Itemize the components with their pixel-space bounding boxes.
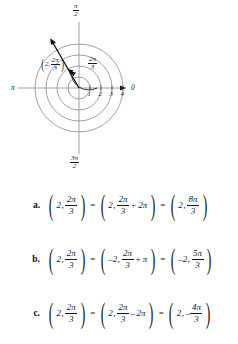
choice-c-equals-1: = [88, 308, 98, 318]
tick-label-3: 3 [110, 91, 114, 98]
choice-a-lhs-open-paren: ( [49, 194, 54, 216]
choice-b-rhs-radius: –2 [178, 254, 188, 264]
polar-coordinate-figure: 1 2 3 4 0 π π 2 3π 2 2π 3 ( 2 , 2π 3 ) [0, 0, 238, 176]
choice-c-rhs-denominator: 3 [190, 313, 202, 325]
choice-c-middle-numerator: 2π [117, 302, 129, 313]
choice-b-middle-close-paren: ) [150, 248, 155, 270]
choice-b-rhs-denominator: 3 [192, 259, 204, 271]
angle-label-numerator: 2π [88, 56, 97, 63]
terminal-ray-arrowhead [50, 38, 56, 45]
choice-c-lhs-numerator: 2π [65, 302, 77, 313]
point-label-theta-numerator: 2π [51, 57, 60, 64]
choice-c-middle-denominator: 3 [117, 313, 129, 325]
choice-c-lhs-pair: ( 2 , 2π 3 ) [46, 302, 88, 324]
choice-c-letter: c. [0, 308, 46, 318]
choice-a-lhs-close-paren: ) [80, 194, 85, 216]
choice-b-rhs-close-paren: ) [207, 248, 212, 270]
choice-a-middle-term: 2π [138, 200, 147, 210]
choice-b-middle-operator: + [134, 254, 143, 264]
tick-label-2: 2 [99, 91, 103, 98]
angle-label-2pi-over-3: 2π 3 [88, 56, 97, 72]
choice-b-equals-1: = [88, 254, 98, 264]
choice-a-rhs-open-paren: ( [170, 194, 175, 216]
pi-over-2-numerator: π [73, 3, 79, 10]
choice-a-middle-pair: ( 2 , 2π 3 + 2π ) [98, 194, 158, 216]
point-label-close-paren: ) [61, 58, 64, 72]
choice-a-lhs-numerator: 2π [65, 194, 77, 205]
choice-c-middle-close-paren: ) [149, 302, 154, 324]
choice-c-rhs-numerator: 4π [190, 302, 202, 313]
axis-label-zero: 0 [131, 84, 135, 92]
choice-b-middle-term: π [143, 254, 148, 264]
answer-choice-c[interactable]: c. ( 2 , 2π 3 ) = ( 2 , [0, 286, 238, 340]
angle-label-denominator: 3 [88, 63, 97, 71]
answer-choice-b[interactable]: b. ( 2 , 2π 3 ) = ( –2 , [0, 232, 238, 286]
choice-c-rhs-open-paren: ( [169, 302, 174, 324]
choice-c-lhs-open-paren: ( [49, 302, 54, 324]
choice-b-lhs-denominator: 3 [65, 259, 77, 271]
choice-b-middle-radius: –2 [108, 254, 118, 264]
tick-label-1: 1 [88, 91, 92, 98]
choice-c-rhs-close-paren: ) [206, 302, 211, 324]
axis-label-3pi-over-2: 3π 2 [70, 155, 79, 171]
choice-a-middle-numerator: 2π [117, 194, 129, 205]
choice-c-equals-2: = [156, 308, 166, 318]
choice-a-lhs-denominator: 3 [65, 205, 77, 217]
choice-b-lhs-close-paren: ) [80, 248, 85, 270]
choice-a-rhs-pair: ( 2 , 8π 3 ) [168, 194, 210, 216]
choice-c-rhs-pair: ( 2 , – 4π 3 ) [166, 302, 213, 324]
choice-c-middle-open-paren: ( [101, 302, 106, 324]
plotted-point-label: ( 2 , 2π 3 ) [40, 57, 65, 73]
choice-b-letter: b. [0, 254, 46, 264]
choice-a-rhs-denominator: 3 [187, 205, 199, 217]
choice-b-middle-pair: ( –2 , 2π 3 + π ) [98, 248, 158, 270]
choice-a-rhs-numerator: 8π [187, 194, 199, 205]
choice-c-lhs-denominator: 3 [65, 313, 77, 325]
three-pi-over-2-denominator: 2 [70, 162, 79, 170]
choice-a-middle-denominator: 3 [117, 205, 129, 217]
choice-b-rhs-pair: ( –2 , 5π 3 ) [168, 248, 214, 270]
three-pi-over-2-numerator: 3π [70, 155, 79, 162]
choice-a-equals-1: = [88, 200, 98, 210]
choice-b-lhs-open-paren: ( [49, 248, 54, 270]
choice-b-middle-denominator: 3 [122, 259, 134, 271]
point-label-theta-denominator: 3 [51, 64, 60, 72]
choice-b-expression: ( 2 , 2π 3 ) = ( –2 , 2π [46, 248, 238, 270]
choice-a-middle-open-paren: ( [101, 194, 106, 216]
choice-a-letter: a. [0, 200, 46, 210]
choice-c-expression: ( 2 , 2π 3 ) = ( 2 , 2π [46, 302, 238, 324]
choice-a-lhs-pair: ( 2 , 2π 3 ) [46, 194, 88, 216]
choice-a-rhs-close-paren: ) [202, 194, 207, 216]
axis-label-pi: π [11, 84, 15, 92]
choice-c-middle-operator: – [129, 308, 137, 318]
point-label-open-paren: ( [41, 58, 44, 72]
choice-c-middle-pair: ( 2 , 2π 3 – 2π ) [98, 302, 156, 324]
choice-b-equals-2: = [158, 254, 168, 264]
choice-b-lhs-pair: ( 2 , 2π 3 ) [46, 248, 88, 270]
choice-b-rhs-numerator: 5π [192, 248, 204, 259]
axis-label-pi-over-2: π 2 [73, 3, 79, 19]
answer-choice-a[interactable]: a. ( 2 , 2π 3 ) = ( 2 , [0, 178, 238, 232]
choice-c-lhs-close-paren: ) [80, 302, 85, 324]
choice-b-lhs-numerator: 2π [65, 248, 77, 259]
choice-b-rhs-open-paren: ( [170, 248, 175, 270]
pi-over-2-denominator: 2 [73, 10, 79, 18]
choice-b-middle-numerator: 2π [122, 248, 134, 259]
polar-grid-svg [0, 0, 238, 176]
choice-c-middle-term: 2π [137, 308, 146, 318]
choice-a-middle-operator: + [129, 200, 138, 210]
choice-a-expression: ( 2 , 2π 3 ) = ( 2 , 2π [46, 194, 238, 216]
tick-label-4: 4 [121, 91, 125, 98]
choice-b-middle-open-paren: ( [101, 248, 106, 270]
choice-a-middle-close-paren: ) [150, 194, 155, 216]
answer-choices-list: a. ( 2 , 2π 3 ) = ( 2 , [0, 176, 238, 344]
choice-a-equals-2: = [158, 200, 168, 210]
